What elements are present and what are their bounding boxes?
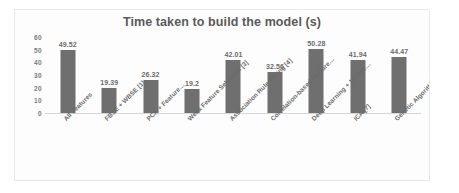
bar-value-label: 50.28 [307,40,325,47]
y-axis-tick: 30 [34,72,42,79]
bar-value-label: 42.01 [224,51,242,58]
bar-value-label: 49.52 [59,41,77,48]
y-axis-tick: 50 [34,46,42,53]
y-axis-tick: 40 [34,59,42,66]
bar-value-label: 41.94 [349,51,367,58]
y-axis-tick: 10 [34,97,42,104]
bar-value-label: 44.47 [390,48,408,55]
bar-value-label: 19.2 [185,80,199,87]
bar-value-label: 26.32 [142,71,160,78]
bar[interactable] [60,50,75,113]
bar-value-label: 19.39 [100,79,118,86]
y-axis-tick: 20 [34,84,42,91]
y-axis-tick: 60 [34,34,42,41]
chart-title: Time taken to build the model (s) [15,15,429,29]
y-axis-tick: 0 [38,110,42,117]
chart-figure: Time taken to build the model (s) 010203… [14,9,430,181]
y-axis: 0102030405060 [15,37,45,113]
